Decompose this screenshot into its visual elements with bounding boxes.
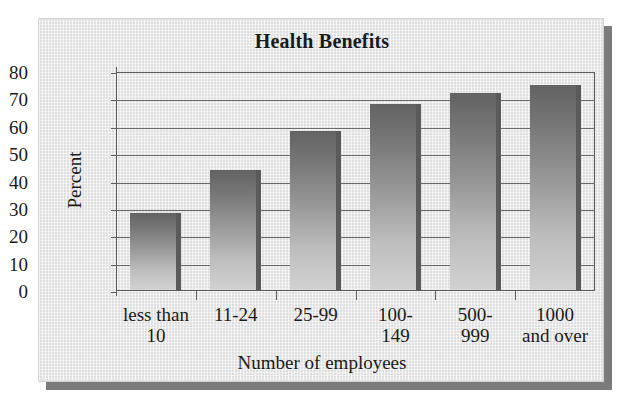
x-tick-mark	[435, 291, 436, 300]
y-tick-label: 0	[0, 282, 28, 301]
y-tick-mark	[111, 292, 117, 293]
y-tick-label: 10	[0, 255, 28, 274]
bar	[210, 170, 261, 290]
x-tick-label: 1000and over	[509, 304, 601, 347]
y-tick-label: 70	[0, 90, 28, 109]
bar	[370, 104, 421, 290]
chart-title: Health Benefits	[39, 30, 605, 53]
y-tick-mark	[111, 73, 117, 74]
x-tick-label-line: 1000	[509, 304, 601, 325]
x-tick-label: 25-99	[270, 304, 362, 325]
x-tick-mark	[276, 291, 277, 300]
x-tick-label-line: 11-24	[190, 304, 282, 325]
y-tick-mark	[111, 265, 117, 266]
y-tick-label: 80	[0, 63, 28, 82]
x-tick-mark	[356, 291, 357, 300]
plot-area: 80706050403020100	[116, 72, 595, 291]
y-tick-label: 20	[0, 227, 28, 246]
bar	[530, 85, 581, 290]
y-tick-mark	[111, 210, 117, 211]
y-tick-mark	[111, 155, 117, 156]
y-tick-label: 30	[0, 200, 28, 219]
gridline	[116, 237, 595, 238]
y-tick-label: 50	[0, 145, 28, 164]
x-tick-label: 500-999	[429, 304, 521, 347]
chart-figure: Health Benefits Percent 8070605040302010…	[38, 18, 604, 382]
y-tick-label: 40	[0, 173, 28, 192]
y-tick-mark	[111, 237, 117, 238]
x-axis-title: Number of employees	[39, 352, 605, 374]
gridline	[116, 183, 595, 184]
x-tick-label-line: and over	[509, 325, 601, 346]
gridline	[116, 210, 595, 211]
y-tick-mark	[111, 128, 117, 129]
y-tick-mark	[111, 183, 117, 184]
x-tick-label-line: 25-99	[270, 304, 362, 325]
bar	[290, 131, 341, 290]
x-tick-mark	[196, 291, 197, 300]
gridline	[116, 265, 595, 266]
gridline	[116, 128, 595, 129]
gridline	[116, 155, 595, 156]
x-tick-label-line: less than	[110, 304, 202, 325]
bar	[450, 93, 501, 290]
x-tick-label: 11-24	[190, 304, 282, 325]
x-tick-mark	[515, 291, 516, 300]
x-tick-label-line: 999	[429, 325, 521, 346]
bar	[130, 213, 181, 290]
x-tick-label-line: 149	[350, 325, 442, 346]
x-tick-label: 100-149	[350, 304, 442, 347]
y-tick-label: 60	[0, 118, 28, 137]
x-tick-label: less than10	[110, 304, 202, 347]
x-tick-label-line: 500-	[429, 304, 521, 325]
x-tick-label-line: 10	[110, 325, 202, 346]
y-tick-mark	[111, 100, 117, 101]
x-tick-label-line: 100-	[350, 304, 442, 325]
y-axis-title: Percent	[64, 125, 86, 235]
gridline	[116, 100, 595, 101]
